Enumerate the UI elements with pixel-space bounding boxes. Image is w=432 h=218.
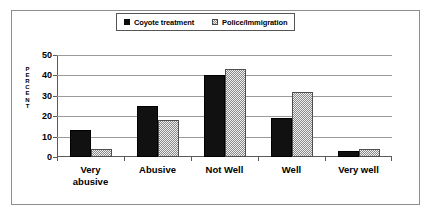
x-axis-tick-label-line: abusive: [57, 176, 124, 188]
legend-item-police-immigration: Police/Immigration: [212, 18, 287, 27]
x-axis-tick-label-line: Very well: [325, 164, 392, 176]
bar-group: [124, 55, 191, 157]
x-axis-tick-label-line: Abusive: [124, 164, 191, 176]
legend-label: Coyote treatment: [134, 18, 194, 27]
legend-item-coyote-treatment: Coyote treatment: [124, 18, 194, 27]
x-axis-tick-label: Abusive: [124, 164, 191, 176]
chart-legend: Coyote treatment Police/Immigration: [116, 13, 295, 31]
y-axis-tick-label: 50: [42, 51, 52, 60]
y-axis-title-letter: T: [26, 103, 30, 109]
x-axis-tick-mark: [124, 157, 125, 161]
bar-group: [325, 55, 392, 157]
x-axis-tick-mark: [258, 157, 259, 161]
y-axis-tick-label: 0: [47, 153, 52, 162]
x-axis-tick-label: Well: [258, 164, 325, 176]
x-axis-tick-marks: [57, 157, 392, 162]
bar-police-immigration: [91, 149, 112, 157]
plot-area: [57, 55, 392, 157]
y-axis-tick-label: 20: [42, 112, 52, 121]
bar-police-immigration: [225, 69, 246, 157]
y-axis-title: P E R C E N T: [23, 66, 32, 109]
bar-police-immigration: [292, 92, 313, 157]
bar-group: [57, 55, 124, 157]
dark-square-icon: [124, 19, 130, 25]
x-axis-tick-mark: [325, 157, 326, 161]
bar-group: [191, 55, 258, 157]
x-axis-tick-mark: [391, 157, 392, 161]
x-axis-tick-mark: [57, 157, 58, 161]
y-axis-tick-label: 10: [42, 132, 52, 141]
legend-label: Police/Immigration: [222, 18, 287, 27]
bar-coyote-treatment: [137, 106, 158, 157]
x-axis-tick-label-line: Well: [258, 164, 325, 176]
bar-police-immigration: [158, 120, 179, 157]
bar-coyote-treatment: [204, 75, 225, 157]
bar-group: [258, 55, 325, 157]
bar-police-immigration: [359, 149, 380, 157]
bar-coyote-treatment: [271, 118, 292, 157]
y-axis-tick-labels: 50403020100: [34, 55, 52, 157]
x-axis-tick-label-line: Very: [57, 164, 124, 176]
y-axis-tick-label: 30: [42, 91, 52, 100]
x-axis-tick-label: Not Well: [191, 164, 258, 176]
hatched-square-icon: [212, 19, 218, 25]
x-axis-tick-labels: VeryabusiveAbusiveNot WellWellVery well: [57, 164, 392, 198]
y-axis-tick-label: 40: [42, 71, 52, 80]
x-axis-tick-label-line: Not Well: [191, 164, 258, 176]
x-axis-tick-label: Very well: [325, 164, 392, 176]
bar-coyote-treatment: [70, 130, 91, 157]
chart-screenshot: Coyote treatment Police/Immigration P E …: [0, 0, 432, 218]
x-axis-tick-mark: [191, 157, 192, 161]
x-axis-tick-label: Veryabusive: [57, 164, 124, 187]
